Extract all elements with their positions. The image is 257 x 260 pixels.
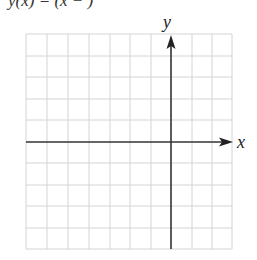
x-axis-label: x — [236, 132, 245, 152]
coordinate-grid: x y — [0, 0, 257, 260]
y-axis-label: y — [161, 12, 171, 32]
